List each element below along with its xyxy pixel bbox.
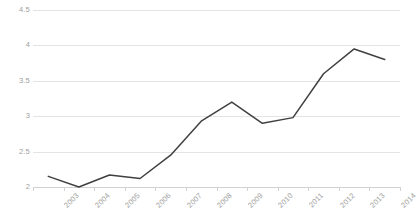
y-axis-tick-label: 4 bbox=[2, 41, 30, 49]
y-axis-tick-label: 2 bbox=[2, 183, 30, 191]
x-axis-tick-label: 2006 bbox=[154, 191, 173, 210]
x-axis-tick-label: 2012 bbox=[338, 191, 357, 210]
y-axis-tick-label: 2.5 bbox=[2, 148, 30, 156]
x-axis-tick-label: 2007 bbox=[185, 191, 204, 210]
y-axis-tick-label: 3.5 bbox=[2, 77, 30, 85]
x-axis-tick-label: 2005 bbox=[124, 191, 143, 210]
y-axis-tick-label: 4.5 bbox=[2, 6, 30, 14]
x-axis-tick-label: 2004 bbox=[93, 191, 112, 210]
gridline bbox=[33, 152, 400, 153]
x-axis-tick-label: 2008 bbox=[215, 191, 234, 210]
gridline bbox=[33, 116, 400, 117]
gridline bbox=[33, 81, 400, 82]
x-axis-tick-label: 2010 bbox=[277, 191, 296, 210]
y-axis-tick-label: 3 bbox=[2, 112, 30, 120]
plot-area bbox=[33, 10, 400, 187]
x-axis-tick-label: 2009 bbox=[246, 191, 265, 210]
gridline bbox=[33, 45, 400, 46]
x-axis-tick-label: 2011 bbox=[307, 191, 325, 209]
x-axis-tick-label: 2003 bbox=[62, 191, 81, 210]
gridline bbox=[33, 10, 400, 11]
x-axis-labels: 2003200420052006200720082009201020112012… bbox=[0, 191, 406, 224]
x-axis-tick-label: 2013 bbox=[368, 191, 387, 210]
x-axis-tick-label: 2014 bbox=[399, 191, 418, 210]
